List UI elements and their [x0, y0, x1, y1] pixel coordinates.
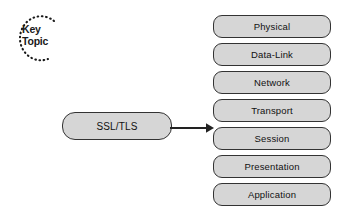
- osi-layer-physical[interactable]: Physical: [213, 15, 331, 38]
- osi-layer-network[interactable]: Network: [213, 71, 331, 94]
- osi-layer-label: Transport: [251, 105, 293, 116]
- key-topic-line-1: Key: [22, 24, 62, 36]
- osi-layer-label: Session: [255, 133, 290, 144]
- key-topic-line-2: Topic: [22, 36, 62, 48]
- osi-layer-application[interactable]: Application: [213, 183, 331, 206]
- ssl-tls-node[interactable]: SSL/TLS: [62, 112, 172, 140]
- osi-layer-label: Data-Link: [251, 49, 293, 60]
- diagram-canvas: Key Topic SSL/TLS Physical Data-Link Net…: [0, 0, 346, 219]
- osi-layer-label: Network: [254, 77, 290, 88]
- key-topic-label: Key Topic: [22, 24, 62, 47]
- ssl-tls-label: SSL/TLS: [96, 121, 137, 132]
- osi-layer-transport[interactable]: Transport: [213, 99, 331, 122]
- osi-layer-session[interactable]: Session: [213, 127, 331, 150]
- osi-layer-label: Physical: [254, 21, 291, 32]
- osi-layer-label: Application: [248, 189, 296, 200]
- osi-layer-label: Presentation: [244, 161, 299, 172]
- osi-layer-data-link[interactable]: Data-Link: [213, 43, 331, 66]
- key-topic-badge: Key Topic: [8, 12, 64, 64]
- arrow-right-icon: [170, 118, 218, 138]
- osi-layer-presentation[interactable]: Presentation: [213, 155, 331, 178]
